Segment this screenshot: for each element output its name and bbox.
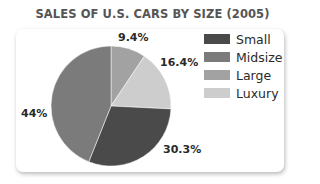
legend-label: Luxury	[236, 86, 279, 101]
legend-swatch	[204, 70, 230, 80]
label-small: 30.3%	[163, 143, 201, 156]
legend-item-midsize: Midsize	[204, 48, 282, 66]
legend-label: Large	[236, 68, 271, 83]
legend-label: Midsize	[236, 50, 282, 65]
pie-slices	[51, 46, 171, 166]
legend-item-luxury: Luxury	[204, 84, 282, 102]
label-luxury: 16.4%	[160, 56, 198, 69]
legend-swatch	[204, 52, 230, 62]
label-large: 9.4%	[118, 31, 149, 44]
legend-item-small: Small	[204, 30, 282, 48]
legend: Small Midsize Large Luxury	[204, 30, 282, 102]
legend-label: Small	[236, 32, 271, 47]
legend-item-large: Large	[204, 66, 282, 84]
legend-swatch	[204, 88, 230, 98]
label-midsize: 44%	[21, 107, 47, 120]
legend-swatch	[204, 34, 230, 44]
